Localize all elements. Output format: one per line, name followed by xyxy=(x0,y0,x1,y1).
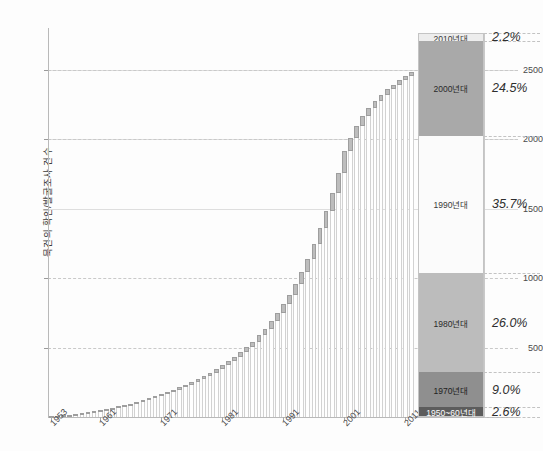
bar xyxy=(275,313,280,417)
bar xyxy=(159,394,164,417)
bar-increment-cap xyxy=(220,365,225,369)
bar xyxy=(366,108,371,417)
bar xyxy=(269,321,274,417)
bar-increment-cap xyxy=(134,402,139,404)
decade-segment-label: 1980년대 xyxy=(434,317,469,329)
bar xyxy=(348,138,353,417)
bar-increment-cap xyxy=(336,173,341,193)
bar xyxy=(220,365,225,417)
bar-increment-cap xyxy=(202,376,207,379)
bar xyxy=(86,412,91,417)
bar xyxy=(73,414,78,417)
bar-increment-cap xyxy=(287,295,292,305)
bar xyxy=(214,369,219,417)
decade-segment: 1950~60년대 xyxy=(418,407,484,417)
percent-leader-line xyxy=(484,417,540,418)
bar xyxy=(92,411,97,417)
bar xyxy=(141,400,146,417)
decade-percent-label: 9.0% xyxy=(492,383,521,397)
percent-leader-line xyxy=(484,41,540,42)
bar-increment-cap xyxy=(342,151,347,173)
y-tick-label: 1000 xyxy=(501,273,543,283)
bar-increment-cap xyxy=(98,410,103,412)
bar xyxy=(287,295,292,417)
bar xyxy=(122,405,127,417)
bar-increment-cap xyxy=(385,89,390,94)
bar-series xyxy=(48,28,418,417)
bar-increment-cap xyxy=(147,398,152,400)
bar xyxy=(189,382,194,417)
decade-percent-label: 26.0% xyxy=(492,316,527,330)
bar-increment-cap xyxy=(232,357,237,361)
bar xyxy=(183,385,188,417)
percent-leader-line xyxy=(484,372,540,373)
bar xyxy=(324,211,329,417)
bar xyxy=(202,376,207,417)
bar xyxy=(385,89,390,417)
bar xyxy=(257,335,262,417)
percent-leader-line xyxy=(484,273,540,274)
bar-increment-cap xyxy=(250,342,255,348)
stack-divider xyxy=(484,33,485,417)
bar-increment-cap xyxy=(153,396,158,398)
bar-increment-cap xyxy=(318,228,323,244)
bar xyxy=(342,151,347,417)
bar-increment-cap xyxy=(403,76,408,80)
bar xyxy=(373,101,378,417)
bar xyxy=(330,193,335,417)
decade-segment: 1970년대 xyxy=(418,372,484,407)
bar-increment-cap xyxy=(165,392,170,394)
decade-stacked-bar: 2010년대2000년대1990년대1980년대1970년대1950~60년대 xyxy=(418,33,484,417)
bar-increment-cap xyxy=(373,101,378,108)
decade-segment-label: 1950~60년대 xyxy=(426,406,475,418)
bar-increment-cap xyxy=(80,413,85,415)
bar xyxy=(397,80,402,417)
bar-increment-cap xyxy=(281,304,286,313)
bar xyxy=(391,85,396,417)
decade-segment-label: 2000년대 xyxy=(434,82,469,94)
bar xyxy=(238,352,243,417)
bar-increment-cap xyxy=(360,116,365,126)
bar-increment-cap xyxy=(409,72,414,76)
bar xyxy=(80,413,85,417)
bar xyxy=(196,379,201,417)
bar xyxy=(250,342,255,417)
bar xyxy=(336,173,341,417)
bar-increment-cap xyxy=(226,361,231,365)
bar-increment-cap xyxy=(257,335,262,341)
bar-increment-cap xyxy=(141,400,146,402)
decade-percent-label: 24.5% xyxy=(492,81,527,95)
bar-increment-cap xyxy=(116,406,121,408)
bar-increment-cap xyxy=(397,80,402,84)
bar-increment-cap xyxy=(299,272,304,284)
decade-segment-label: 1970년대 xyxy=(434,384,469,396)
bar xyxy=(147,398,152,417)
decade-segment: 2000년대 xyxy=(418,41,484,135)
bar-increment-cap xyxy=(354,126,359,138)
decade-segment: 1990년대 xyxy=(418,136,484,273)
bar-increment-cap xyxy=(122,405,127,407)
decade-segment: 2010년대 xyxy=(418,33,484,41)
decade-segment-label: 1990년대 xyxy=(434,198,469,210)
bar-increment-cap xyxy=(269,321,274,328)
decade-percent-label: 35.7% xyxy=(492,197,527,211)
bar xyxy=(299,272,304,417)
bar xyxy=(318,228,323,417)
bar-increment-cap xyxy=(305,259,310,272)
bar xyxy=(281,304,286,417)
bar-increment-cap xyxy=(86,412,91,414)
bar-increment-cap xyxy=(159,394,164,396)
decade-segment: 1980년대 xyxy=(418,273,484,373)
bar xyxy=(312,244,317,417)
bar-increment-cap xyxy=(208,373,213,376)
percent-leader-line xyxy=(484,136,540,137)
bar xyxy=(360,116,365,417)
bar-increment-cap xyxy=(189,382,194,385)
bar xyxy=(403,76,408,417)
bar-increment-cap xyxy=(348,138,353,152)
bar-increment-cap xyxy=(196,379,201,382)
bar xyxy=(379,95,384,417)
bar-increment-cap xyxy=(293,284,298,295)
bar xyxy=(354,126,359,417)
bar-increment-cap xyxy=(238,352,243,357)
